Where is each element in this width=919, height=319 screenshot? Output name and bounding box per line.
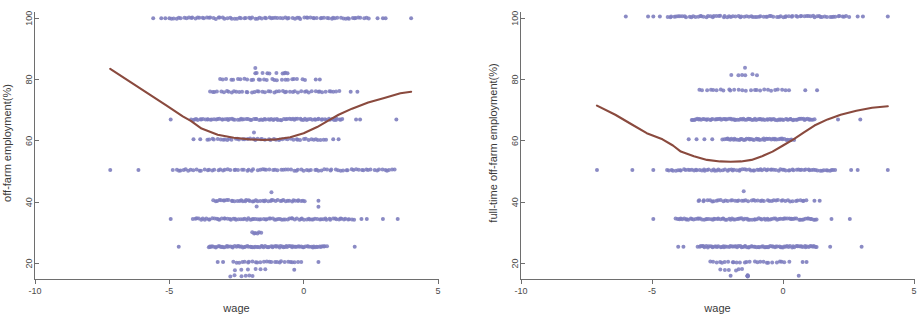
data-point (803, 88, 807, 92)
data-point (702, 198, 706, 202)
data-point (341, 169, 345, 173)
data-point (755, 73, 759, 77)
data-point (239, 268, 243, 272)
axes (34, 12, 438, 279)
data-point (376, 16, 380, 20)
data-point (787, 260, 791, 264)
data-point (296, 168, 300, 172)
data-point (718, 14, 722, 18)
data-point (251, 167, 255, 171)
data-point (325, 168, 329, 172)
data-point (748, 260, 752, 264)
data-point (263, 90, 267, 94)
data-point (365, 217, 369, 221)
data-point (737, 88, 741, 92)
data-point (770, 260, 774, 264)
x-tick-label: -10 (28, 286, 41, 296)
data-point (776, 198, 780, 202)
data-point (264, 16, 268, 20)
data-point (651, 168, 655, 172)
x-tick-label: 0 (780, 286, 785, 296)
data-point (242, 168, 246, 172)
data-point (762, 88, 766, 92)
data-point (705, 88, 709, 92)
data-point (318, 78, 322, 82)
panel-full-time-off-farm-employment: 20406080100-10-505wagefull-time off-farm… (459, 0, 919, 319)
data-point (358, 16, 362, 20)
data-point (238, 77, 242, 81)
data-point (721, 89, 725, 93)
y-axis-ticks: 20406080100 (24, 11, 39, 269)
data-point (771, 15, 775, 19)
data-point (243, 260, 247, 264)
y-tick-label: 80 (510, 74, 520, 84)
data-point (743, 73, 747, 77)
data-point (286, 71, 290, 75)
x-tick-label: -5 (648, 286, 656, 296)
data-point (231, 78, 235, 82)
x-tick-label: 0 (301, 286, 306, 296)
data-point (723, 268, 727, 272)
data-point (812, 199, 816, 203)
data-point (252, 131, 256, 135)
data-point (646, 15, 650, 19)
data-point (215, 89, 219, 93)
data-point (715, 260, 719, 264)
data-point (340, 117, 344, 121)
data-point (265, 78, 269, 82)
data-point (287, 16, 291, 20)
data-point (746, 199, 750, 203)
data-point (240, 274, 244, 278)
data-point (776, 88, 780, 92)
data-point (409, 16, 413, 20)
data-point (298, 138, 302, 142)
data-point (729, 73, 733, 77)
data-point (233, 268, 237, 272)
data-point (293, 260, 297, 264)
data-point (710, 137, 714, 141)
data-point (199, 169, 203, 173)
data-point (284, 90, 288, 94)
data-point (244, 16, 248, 20)
data-point (687, 137, 691, 141)
data-point (329, 168, 333, 172)
data-point (630, 168, 634, 172)
data-point (221, 260, 225, 264)
data-point (849, 168, 853, 172)
data-point (858, 117, 862, 121)
data-point (228, 168, 232, 172)
data-point (324, 138, 328, 142)
x-tick-label: -10 (514, 286, 527, 296)
data-point (268, 90, 272, 94)
data-point (310, 89, 314, 93)
data-point (277, 89, 281, 93)
data-point (151, 16, 155, 20)
data-point (295, 77, 299, 81)
data-point (354, 117, 358, 121)
figure-scatter-panels: 20406080100-10-505wageoff-farm employmen… (0, 0, 919, 319)
data-point (169, 217, 173, 221)
data-point (171, 168, 175, 172)
data-point (804, 198, 808, 202)
data-point (236, 168, 240, 172)
data-point (239, 16, 243, 20)
y-tick-label: 40 (510, 197, 520, 207)
data-point (216, 260, 220, 264)
data-point (212, 168, 216, 172)
x-axis-title: wage (703, 302, 730, 314)
data-point (251, 78, 255, 82)
data-point (848, 217, 852, 221)
data-point (367, 17, 371, 21)
data-point (651, 217, 655, 221)
data-point (267, 168, 271, 172)
data-point (746, 273, 750, 277)
x-axis-ticks: -10-505 (28, 279, 440, 296)
data-point (847, 15, 851, 19)
data-point (352, 218, 356, 222)
data-point (269, 260, 273, 264)
data-point (258, 78, 262, 82)
data-point (299, 260, 303, 264)
y-axis-title: full-time off-farm employment(%) (487, 63, 499, 222)
data-point (280, 78, 284, 82)
data-point (818, 199, 822, 203)
